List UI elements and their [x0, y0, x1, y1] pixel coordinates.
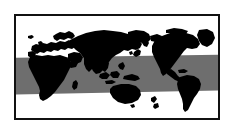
map-frame-border: World map with tropical belt band	[14, 14, 220, 120]
world-map-figure: World map with tropical belt band	[0, 0, 231, 131]
world-map-graphic	[16, 16, 218, 118]
